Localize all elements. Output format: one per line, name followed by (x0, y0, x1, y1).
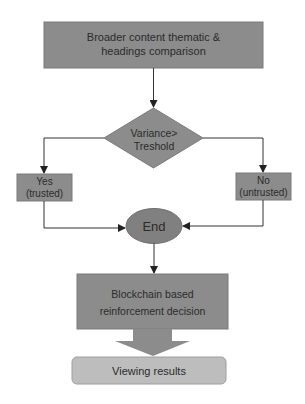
no-box-line2: (untrusted) (239, 187, 287, 198)
no-box-line1: No (257, 175, 270, 186)
yes-box-line1: Yes (36, 176, 52, 187)
arrow-decision-to-yes (44, 138, 104, 173)
end-label: End (142, 219, 165, 234)
decision-diamond: Variance> Treshold (104, 108, 203, 168)
start-box-line2: headings comparison (101, 45, 206, 57)
decision-line1: Variance> (131, 127, 178, 139)
no-box: No (untrusted) (236, 173, 291, 200)
yes-box: Yes (trusted) (17, 174, 72, 201)
arrow-decision-to-no (203, 138, 263, 172)
flowchart: Broader content thematic & headings comp… (0, 0, 305, 404)
blockchain-box: Blockchain based reinforcement decision (77, 274, 228, 329)
block-arrow-icon (115, 329, 190, 356)
arrow-yes-to-end (44, 201, 125, 228)
blockchain-line2: reinforcement decision (100, 305, 206, 317)
decision-line2: Treshold (134, 140, 175, 152)
start-box-line1: Broader content thematic & (87, 31, 221, 43)
start-box: Broader content thematic & headings comp… (44, 22, 263, 68)
end-node: End (126, 209, 182, 244)
blockchain-line1: Blockchain based (111, 288, 193, 300)
viewing-results-box: Viewing results (72, 357, 226, 384)
viewing-results-label: Viewing results (112, 365, 186, 377)
yes-box-line2: (trusted) (26, 188, 63, 199)
arrow-no-to-end (183, 200, 263, 226)
